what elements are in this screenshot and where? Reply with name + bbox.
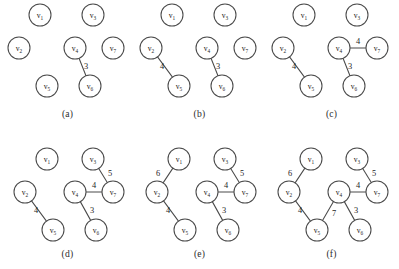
panel-caption-d: (d) bbox=[0, 248, 135, 259]
panel-caption-f: (f) bbox=[264, 248, 399, 259]
panel-f: 647345v1v2v3v4v5v6v7(f) bbox=[264, 130, 399, 264]
edge-weight-v4-v6: 3 bbox=[216, 62, 220, 71]
edge-weight-v4-v6: 3 bbox=[348, 62, 352, 71]
graph-f: 647345v1v2v3v4v5v6v7 bbox=[264, 130, 399, 264]
edge-v1-v2 bbox=[163, 168, 173, 183]
edge-weight-v4-v7: 4 bbox=[356, 181, 361, 190]
edge-v3-v7 bbox=[231, 168, 240, 182]
edge-weight-v4-v6: 3 bbox=[90, 206, 94, 215]
panel-d: 4345v1v2v3v4v5v6v7(d) bbox=[0, 130, 135, 264]
figure-root: 3v1v2v3v4v5v6v7(a)43v1v2v3v4v5v6v7(b)434… bbox=[0, 0, 399, 269]
edge-weight-v3-v7: 5 bbox=[108, 169, 112, 178]
edge-weight-v4-v6: 3 bbox=[354, 206, 358, 215]
edge-weight-v1-v2: 6 bbox=[288, 169, 292, 178]
panel-e: 64345v1v2v3v4v5v6v7(e) bbox=[132, 130, 267, 264]
edge-weight-v3-v7: 5 bbox=[372, 169, 376, 178]
panel-caption-e: (e) bbox=[132, 248, 267, 259]
edge-weight-v4-v6: 3 bbox=[84, 62, 88, 71]
panel-caption-c: (c) bbox=[264, 108, 399, 119]
panel-caption-a: (a) bbox=[0, 108, 135, 119]
edge-weight-v4-v7: 4 bbox=[92, 181, 97, 190]
edge-v3-v7 bbox=[99, 168, 108, 182]
edge-weight-v4-v6: 3 bbox=[222, 206, 226, 215]
panel-c: 434v1v2v3v4v5v6v7(c) bbox=[264, 0, 399, 134]
graph-d: 4345v1v2v3v4v5v6v7 bbox=[0, 130, 135, 264]
edge-v3-v7 bbox=[363, 168, 372, 182]
edge-weight-v4-v7: 4 bbox=[356, 37, 361, 46]
graph-e: 64345v1v2v3v4v5v6v7 bbox=[132, 130, 267, 264]
edge-weight-v4-v5: 7 bbox=[332, 209, 336, 218]
edge-weight-v1-v2: 6 bbox=[156, 169, 160, 178]
edge-weight-v4-v7: 4 bbox=[224, 181, 229, 190]
edge-weight-v3-v7: 5 bbox=[240, 169, 244, 178]
panel-caption-b: (b) bbox=[132, 108, 267, 119]
edge-v1-v2 bbox=[295, 168, 305, 183]
panel-a: 3v1v2v3v4v5v6v7(a) bbox=[0, 0, 135, 134]
panel-b: 43v1v2v3v4v5v6v7(b) bbox=[132, 0, 267, 134]
